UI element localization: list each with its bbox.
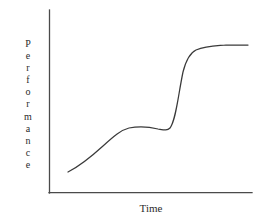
y-axis-label-letter: r [21,98,35,110]
y-axis-label: P e r f o r m a n c e [21,38,35,171]
y-axis-label-letter: m [21,111,35,123]
y-axis-label-letter: o [21,86,35,98]
plot-area [0,0,260,222]
y-axis-label-letter: P [21,38,35,50]
y-axis-label-letter: c [21,147,35,159]
y-axis-label-letter: a [21,123,35,135]
chart-figure: P e r f o r m a n c e Time [0,0,260,222]
y-axis-label-letter: e [21,50,35,62]
x-axis-label: Time [140,202,163,214]
performance-curve [68,45,248,172]
y-axis-label-letter: f [21,74,35,86]
x-axis-label-wrap: Time [0,202,260,214]
y-axis-label-letter: e [21,159,35,171]
y-axis-label-letter: r [21,62,35,74]
y-axis-label-letter: n [21,135,35,147]
